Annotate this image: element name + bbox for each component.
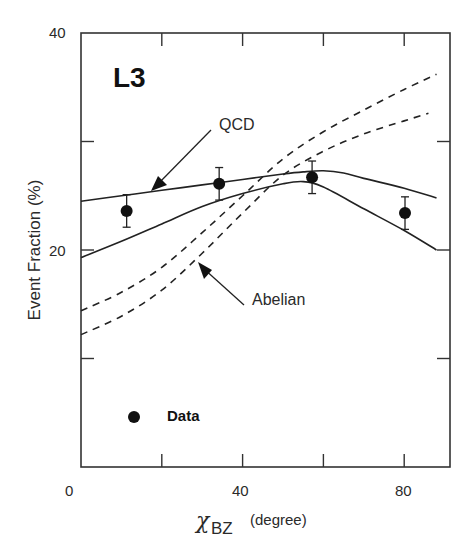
legend-data-marker-icon <box>128 411 140 423</box>
data-marker-icon <box>213 178 225 190</box>
qcd-arrow-shaft <box>157 130 211 185</box>
x-tick-label-40: 40 <box>232 482 249 499</box>
x-tick-label-80: 80 <box>395 482 412 499</box>
y-axis-title: Event Fraction (%) <box>25 180 44 321</box>
x-axis-unit: (degree) <box>250 511 307 528</box>
x-tick-label-0: 0 <box>65 482 73 499</box>
data-point <box>213 168 225 201</box>
abelian-curve <box>81 74 437 311</box>
y-tick-label-40: 40 <box>49 24 66 41</box>
chart-canvas: 40 20 0 40 80 Event Fraction (%) χ BZ (d… <box>0 0 474 558</box>
data-point <box>306 161 318 194</box>
y-tick-label-20: 20 <box>49 242 66 259</box>
data-marker-icon <box>121 205 133 217</box>
annotation-abelian: Abelian <box>252 291 305 308</box>
data-point <box>121 195 133 228</box>
data-marker-icon <box>306 171 318 183</box>
abelian-arrow-shaft <box>203 268 244 305</box>
legend-data-label: Data <box>167 407 200 424</box>
plot-frame <box>81 33 450 467</box>
axis-ticks <box>81 33 450 467</box>
qcd-curve <box>81 181 437 257</box>
data-marker-icon <box>399 207 411 219</box>
abelian-arrow-head-icon <box>198 262 212 279</box>
data-point <box>399 197 411 230</box>
data-points-group <box>121 161 411 229</box>
x-axis-symbol: χ <box>194 508 211 533</box>
x-axis-subscript: BZ <box>211 519 233 538</box>
qcd-arrow-head-icon <box>151 176 167 191</box>
annotation-qcd: QCD <box>219 116 255 133</box>
experiment-label: L3 <box>113 62 146 93</box>
